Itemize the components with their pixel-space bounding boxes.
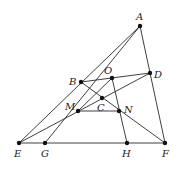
segment-af <box>140 26 165 143</box>
segment-ag <box>45 26 140 143</box>
segment-ea <box>19 26 140 143</box>
point-e <box>17 141 21 145</box>
labels-group: ABODCMNEGHF <box>13 11 170 159</box>
point-m <box>76 109 80 113</box>
point-label-b: B <box>68 76 76 87</box>
point-n <box>117 109 121 113</box>
point-o <box>110 76 114 80</box>
point-a <box>138 24 142 28</box>
point-g <box>43 141 47 145</box>
point-label-d: D <box>153 69 162 80</box>
point-h <box>125 141 129 145</box>
point-label-h: H <box>121 148 131 159</box>
geometry-diagram: ABODCMNEGHF <box>0 0 179 174</box>
point-label-e: E <box>13 148 22 159</box>
point-label-f: F <box>161 148 170 159</box>
point-c <box>100 96 104 100</box>
point-label-m: M <box>64 101 76 112</box>
point-b <box>79 80 83 84</box>
segments-group <box>19 26 165 143</box>
segment-bf <box>81 82 165 143</box>
point-f <box>163 141 167 145</box>
segment-om <box>78 78 112 111</box>
point-label-n: N <box>123 104 134 115</box>
point-label-g: G <box>41 148 49 159</box>
point-label-a: A <box>135 11 143 22</box>
segment-bd <box>81 73 150 82</box>
point-label-o: O <box>104 65 112 76</box>
point-d <box>148 71 152 75</box>
point-label-c: C <box>97 102 105 113</box>
